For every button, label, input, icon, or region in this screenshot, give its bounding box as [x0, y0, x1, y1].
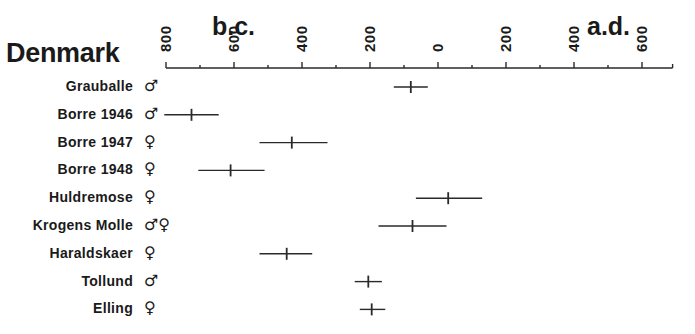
tick-label: 200 [497, 25, 514, 52]
era-label-bc: b.c. [212, 12, 255, 41]
tick-label: 400 [293, 25, 310, 52]
tick-label: 800 [157, 25, 174, 52]
row-label: Grauballe [66, 78, 133, 94]
row-label: Borre 1947 [58, 134, 133, 150]
row-label: Krogens Molle [33, 217, 133, 233]
female-symbol-icon: ♀ [144, 187, 156, 206]
male-symbol-icon: ♂ [144, 271, 158, 290]
male-symbol-icon: ♂ [144, 104, 158, 123]
male-female-symbol-icon: ♂♀ [144, 215, 170, 234]
tick-label: 600 [633, 25, 650, 52]
female-symbol-icon: ♀ [144, 132, 156, 151]
tick-label: 0 [429, 43, 446, 52]
era-label-ad: a.d. [587, 12, 630, 41]
male-symbol-icon: ♂ [144, 76, 158, 95]
tick-label: 400 [565, 25, 582, 52]
female-symbol-icon: ♀ [144, 243, 156, 262]
row-label: Elling [93, 300, 133, 316]
row-label: Borre 1948 [58, 161, 133, 177]
row-label: Huldremose [49, 189, 133, 205]
female-symbol-icon: ♀ [144, 159, 156, 178]
row-label: Borre 1946 [58, 106, 133, 122]
row-label: Tollund [81, 273, 133, 289]
female-symbol-icon: ♀ [144, 298, 156, 317]
tick-label: 200 [361, 25, 378, 52]
chart-title: Denmark [6, 38, 119, 69]
row-label: Haraldskaer [50, 245, 133, 261]
